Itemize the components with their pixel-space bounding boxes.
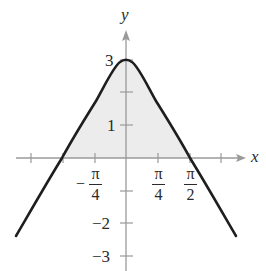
fraction-bar: [89, 184, 102, 185]
x-axis-label: x: [251, 148, 259, 165]
x-tick-label-pi-over-4: π 4: [152, 166, 165, 203]
denominator: 2: [184, 187, 197, 203]
chart-canvas: [0, 0, 266, 271]
numerator: π: [89, 166, 102, 182]
y-tick-label-neg3: −3: [92, 248, 110, 265]
x-tick-label-pi-over-2: π 2: [184, 166, 197, 203]
denominator: 4: [89, 187, 102, 203]
y-tick-label-1: 1: [107, 117, 116, 134]
numerator: π: [184, 166, 197, 182]
denominator: 4: [152, 187, 165, 203]
x-tick-label-minus-sign: −: [76, 175, 85, 193]
y-tick-label-neg2: −2: [92, 215, 110, 232]
chart-figure: y x 3 1 −2 −3 − π 4 π 4 π 2: [0, 0, 266, 271]
numerator: π: [152, 166, 165, 182]
y-axis-label: y: [121, 6, 129, 23]
x-tick-label-neg-pi-over-4: π 4: [89, 166, 102, 203]
y-tick-label-3: 3: [105, 52, 114, 69]
fraction-bar: [184, 184, 197, 185]
fraction-bar: [152, 184, 165, 185]
